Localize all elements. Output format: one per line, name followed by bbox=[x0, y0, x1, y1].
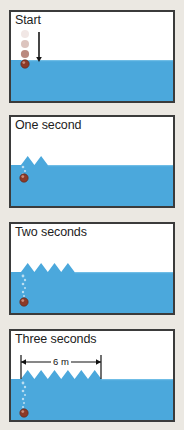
bubble bbox=[23, 295, 25, 297]
ball-trail-ghost bbox=[21, 40, 29, 48]
ball-trail-ghost bbox=[21, 50, 29, 58]
bubble bbox=[22, 390, 25, 393]
ball-highlight bbox=[21, 410, 24, 413]
ball-highlight bbox=[22, 61, 25, 64]
bubble bbox=[24, 386, 26, 388]
wave-diagram-figure: StartOne secondTwo secondsThree seconds6… bbox=[0, 0, 184, 430]
water-surface-highlight bbox=[48, 165, 173, 166]
water-body bbox=[11, 156, 173, 206]
water-surface-highlight bbox=[101, 379, 173, 380]
bubble bbox=[22, 382, 25, 385]
falling-ball bbox=[20, 298, 28, 306]
dimension-arrow-right-icon bbox=[96, 359, 101, 365]
ball-highlight bbox=[21, 299, 24, 302]
bubble bbox=[24, 287, 26, 289]
panel-one-second: One second bbox=[9, 115, 175, 208]
water-surface-highlight bbox=[21, 60, 173, 61]
dimension-arrow-left-icon bbox=[21, 359, 26, 365]
bubble bbox=[22, 406, 24, 408]
bubble bbox=[24, 394, 26, 396]
panel-label-start: Start bbox=[15, 13, 41, 27]
ball-highlight bbox=[21, 175, 24, 178]
bubble bbox=[22, 398, 24, 400]
bubble bbox=[22, 283, 25, 286]
falling-ball bbox=[20, 174, 28, 182]
panel-label-three-seconds: Three seconds bbox=[15, 332, 96, 346]
panel-two-seconds: Two seconds bbox=[9, 222, 175, 315]
dimension-label-6m: 6 m bbox=[51, 356, 71, 367]
bubble bbox=[24, 170, 26, 172]
panel-start: Start bbox=[9, 10, 175, 103]
bubble bbox=[22, 275, 25, 278]
water-body bbox=[11, 60, 173, 101]
panel-three-seconds: Three seconds6 m bbox=[9, 329, 175, 422]
water-body bbox=[11, 370, 173, 420]
falling-ball bbox=[21, 60, 29, 68]
water-surface-highlight bbox=[75, 272, 173, 273]
bubble bbox=[23, 402, 25, 404]
panel-label-one-second: One second bbox=[15, 118, 81, 132]
bubble bbox=[24, 279, 26, 281]
bubble bbox=[22, 291, 24, 293]
ball-trail-ghost bbox=[21, 30, 29, 38]
water-body bbox=[11, 263, 173, 313]
falling-ball bbox=[20, 409, 28, 417]
panel-label-two-seconds: Two seconds bbox=[15, 225, 87, 239]
bubble bbox=[22, 166, 25, 169]
